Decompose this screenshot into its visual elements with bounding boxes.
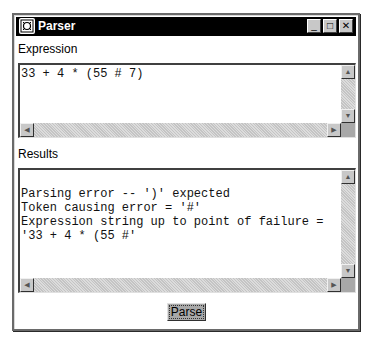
results-horizontal-scrollbar[interactable]: ◀ ▶ bbox=[20, 278, 341, 292]
scroll-left-button[interactable]: ◀ bbox=[20, 123, 34, 137]
results-label: Results bbox=[18, 147, 58, 161]
maximize-button[interactable]: □ bbox=[323, 19, 337, 33]
expression-text[interactable]: 33 + 4 * (55 # 7) bbox=[21, 67, 143, 81]
close-icon: ✕ bbox=[342, 20, 350, 31]
parse-button-label: Parse bbox=[169, 305, 204, 319]
scroll-left-button[interactable]: ◀ bbox=[20, 278, 34, 292]
results-vertical-scrollbar[interactable]: ▲ ▼ bbox=[341, 170, 355, 278]
minimize-button[interactable]: _ bbox=[307, 19, 321, 33]
results-line bbox=[21, 173, 323, 187]
scroll-right-button[interactable]: ▶ bbox=[327, 123, 341, 137]
expression-textarea[interactable]: 33 + 4 * (55 # 7) ▲ ▼ ◀ ▶ bbox=[18, 63, 356, 138]
close-button[interactable]: ✕ bbox=[339, 19, 353, 33]
window-title: Parser bbox=[38, 19, 75, 34]
arrow-up-icon: ▲ bbox=[345, 68, 352, 75]
arrow-down-icon: ▼ bbox=[345, 267, 352, 274]
scroll-corner bbox=[341, 278, 355, 292]
arrow-left-icon: ◀ bbox=[24, 126, 29, 133]
scroll-down-button[interactable]: ▼ bbox=[341, 109, 355, 123]
expression-label: Expression bbox=[18, 42, 77, 56]
parse-button[interactable]: Parse bbox=[167, 303, 206, 321]
scroll-down-button[interactable]: ▼ bbox=[341, 264, 355, 278]
scroll-up-button[interactable]: ▲ bbox=[341, 65, 355, 79]
arrow-right-icon: ▶ bbox=[331, 281, 336, 288]
results-textarea[interactable]: Parsing error -- ')' expectedToken causi… bbox=[18, 168, 356, 293]
arrow-down-icon: ▼ bbox=[345, 112, 352, 119]
scroll-corner bbox=[341, 123, 355, 137]
app-icon bbox=[19, 18, 35, 34]
results-line: Parsing error -- ')' expected bbox=[21, 187, 323, 201]
minimize-icon: _ bbox=[311, 20, 317, 31]
title-bar[interactable]: Parser _ □ ✕ bbox=[16, 17, 356, 36]
results-line: Expression string up to point of failure… bbox=[21, 215, 323, 229]
arrow-up-icon: ▲ bbox=[345, 173, 352, 180]
maximize-icon: □ bbox=[327, 20, 333, 31]
arrow-left-icon: ◀ bbox=[24, 281, 29, 288]
expression-horizontal-scrollbar[interactable]: ◀ ▶ bbox=[20, 123, 341, 137]
results-line: Token causing error = '#' bbox=[21, 201, 323, 215]
results-text[interactable]: Parsing error -- ')' expectedToken causi… bbox=[21, 173, 323, 243]
arrow-right-icon: ▶ bbox=[331, 126, 336, 133]
expression-vertical-scrollbar[interactable]: ▲ ▼ bbox=[341, 65, 355, 123]
scroll-right-button[interactable]: ▶ bbox=[327, 278, 341, 292]
scroll-up-button[interactable]: ▲ bbox=[341, 170, 355, 184]
results-line: '33 + 4 * (55 #' bbox=[21, 229, 323, 243]
